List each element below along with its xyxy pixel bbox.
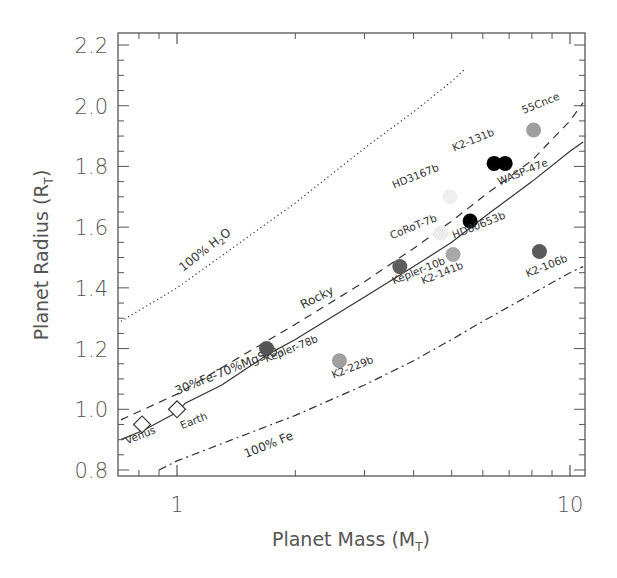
x-axis-title: Planet Mass (MT) — [272, 528, 430, 554]
y-tick-label: 1.2 — [75, 338, 108, 362]
y-tick-label: 1.8 — [75, 155, 108, 179]
curve-label-rocky: Rocky — [298, 283, 336, 312]
exoplanet-label: K2-131b — [450, 125, 496, 153]
exoplanet-label: CoRoT-7b — [388, 211, 439, 241]
exoplanet-point — [532, 244, 547, 259]
tick-labels: 0.81.01.21.41.61.82.02.2110 — [75, 34, 584, 517]
y-tick-label: 2.0 — [75, 95, 108, 119]
exoplanet-point — [526, 123, 541, 138]
mass-radius-chart: 100% H2ORocky30%Fe-70%MgSiO3100% Fe Venu… — [0, 0, 617, 578]
exoplanet-label: HD3167b — [390, 161, 441, 191]
x-tick-label: 10 — [557, 493, 584, 517]
exoplanet-label: 55Cnce — [520, 90, 561, 116]
curve-100-h2o — [121, 69, 465, 321]
exoplanet-label: K2-106b — [524, 252, 570, 280]
y-tick-label: 0.8 — [75, 459, 108, 483]
y-tick-label: 2.2 — [75, 34, 108, 58]
exoplanet-point — [433, 226, 448, 241]
y-tick-label: 1.4 — [75, 277, 108, 301]
x-tick-label: 1 — [170, 493, 183, 517]
y-tick-label: 1.0 — [75, 398, 108, 422]
curve-label-100-h2o: 100% H2O — [176, 225, 234, 276]
y-tick-label: 1.6 — [75, 216, 108, 240]
exoplanet-point — [442, 189, 457, 204]
y-axis-title: Planet Radius (RT) — [30, 170, 56, 341]
exoplanet-point — [498, 156, 513, 171]
curve-label-100-fe: 100% Fe — [242, 428, 295, 460]
exoplanet-label: HD80653b — [450, 209, 507, 241]
curve-30-fe-70-mgsio3 — [121, 142, 583, 440]
